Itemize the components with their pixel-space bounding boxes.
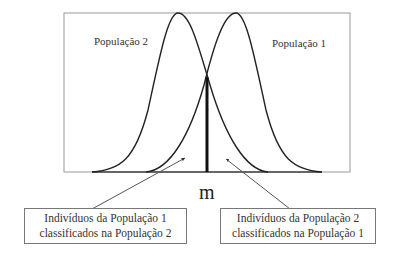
- box-right-line2: classificados na População 1: [221, 226, 375, 241]
- box-left-line2: classificados na População 2: [25, 226, 186, 241]
- threshold-label: m: [199, 181, 215, 204]
- box-pop2-classified-pop1: Indivíduos da População 2 classificados …: [220, 208, 376, 244]
- arrow-left: [92, 158, 185, 209]
- box-pop1-classified-pop2: Indivíduos da População 1 classificados …: [24, 208, 187, 244]
- box-left-line1: Indivíduos da População 1: [25, 211, 186, 226]
- label-population-1: População 1: [272, 37, 326, 49]
- box-right-line1: Indivíduos da População 2: [221, 211, 375, 226]
- label-population-2: População 2: [94, 35, 148, 47]
- arrow-right: [226, 159, 290, 209]
